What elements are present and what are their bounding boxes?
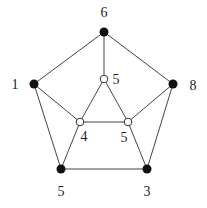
node-label-top: 6 xyxy=(101,5,108,20)
node-label-botleft: 5 xyxy=(58,184,65,199)
node-right xyxy=(169,80,178,89)
node-botright xyxy=(143,165,152,174)
node-label-botright: 3 xyxy=(144,184,151,199)
edge-left-botleft xyxy=(34,84,61,169)
edge-left-in_left xyxy=(34,84,80,122)
node-in_top xyxy=(100,75,108,83)
edge-in_top-in_left xyxy=(80,79,104,122)
edge-right-botright xyxy=(147,84,173,169)
graph-diagram: 61853545 xyxy=(0,0,207,208)
node-in_left xyxy=(76,118,84,126)
node-label-in_top: 5 xyxy=(113,72,120,87)
node-in_right xyxy=(124,118,132,126)
edge-top-left xyxy=(34,32,104,84)
edge-botleft-in_left xyxy=(61,122,80,169)
node-label-in_right: 5 xyxy=(121,130,128,145)
node-label-right: 8 xyxy=(190,78,197,93)
node-top xyxy=(100,28,109,37)
node-botleft xyxy=(57,165,66,174)
node-label-in_left: 4 xyxy=(81,129,88,144)
edge-botright-in_right xyxy=(128,122,147,169)
node-left xyxy=(30,80,39,89)
edge-right-in_right xyxy=(128,84,173,122)
edge-layer xyxy=(34,32,173,169)
node-label-left: 1 xyxy=(12,77,19,92)
